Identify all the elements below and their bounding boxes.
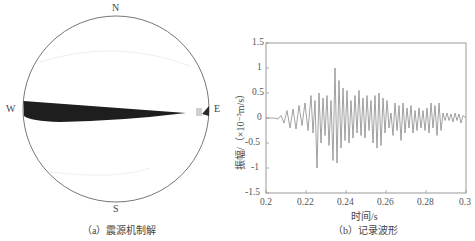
waveform-line: [266, 68, 466, 168]
ytick-label: 0.5: [252, 87, 264, 97]
x-axis-label: 时间/s: [351, 208, 378, 223]
xtick-label: 0.22: [297, 197, 314, 207]
xtick-label: 0.3: [459, 197, 471, 207]
xtick-label: 0.2: [260, 197, 272, 207]
ytick-label: 1.5: [252, 37, 264, 47]
ytick-label: -0.5: [245, 137, 260, 147]
ytick-label: -1: [251, 162, 259, 172]
ytick-label: 1: [257, 62, 262, 72]
xtick-label: 0.28: [417, 197, 434, 207]
y-axis-label: 振幅/（×10⁻³m/s）: [232, 89, 247, 170]
ytick-label: -1.5: [245, 187, 260, 197]
xtick-label: 0.26: [377, 197, 394, 207]
xtick-label: 0.24: [337, 197, 354, 207]
ytick-label: 0: [257, 112, 262, 122]
waveform-panel: 1.5 1 0.5 0 -0.5 -1 -1.5 0.2 0.22 0.24 0…: [0, 0, 475, 241]
caption-b: （b）记录波形: [333, 222, 398, 237]
